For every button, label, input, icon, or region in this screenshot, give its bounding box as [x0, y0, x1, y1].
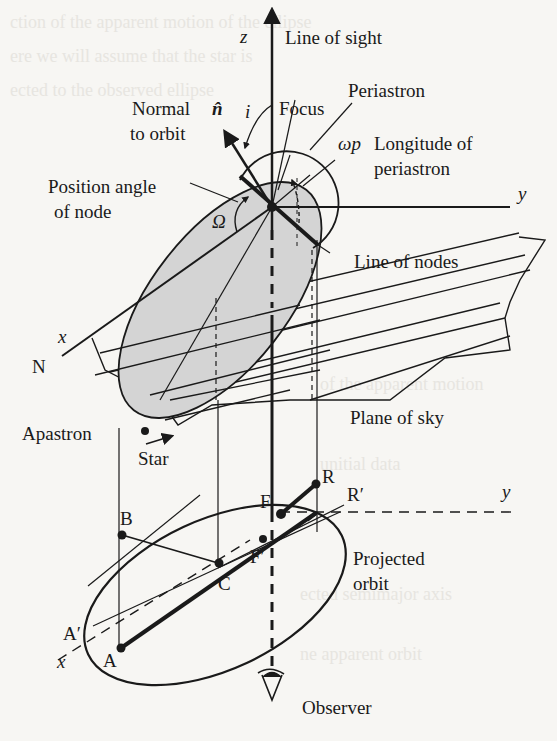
normal-label-1: Normal [132, 98, 190, 119]
star-label: Star [138, 448, 169, 469]
big-omega-label: Ω [212, 211, 226, 232]
point-C-label: C [218, 573, 231, 594]
omega-p-leader [303, 160, 335, 186]
point-A-label: A [103, 650, 117, 671]
observer-label: Observer [302, 697, 372, 718]
segment-B-C [122, 535, 218, 563]
line-of-nodes-label: Line of nodes [354, 251, 458, 272]
point-B [118, 531, 127, 540]
normal-label-2: to orbit [130, 123, 186, 144]
longitude-label-2: periastron [374, 158, 450, 179]
y-axis-lower-label: y [500, 481, 511, 502]
x-axis-upper-label: x [57, 326, 67, 347]
point-R-prime-label: R′ [347, 484, 364, 505]
position-angle-leader [190, 183, 238, 202]
omega-p-label: ωp [338, 133, 361, 154]
observer-eye-icon [258, 669, 284, 700]
position-angle-label-1: Position angle [48, 176, 156, 197]
plane-of-sky-label: Plane of sky [350, 407, 444, 428]
point-R-label: R [322, 466, 335, 487]
svg-text:ere we will assume that the st: ere we will assume that the star is [10, 46, 252, 66]
north-label: N [32, 356, 46, 377]
point-C [215, 559, 224, 568]
point-F-prime [259, 535, 267, 543]
position-angle-label-2: of node [54, 201, 112, 222]
x-axis-lower-label: x [56, 651, 66, 672]
star-point [141, 427, 149, 435]
projected-major-axis-end [307, 513, 316, 520]
periastron-label: Periastron [348, 80, 426, 101]
point-A-prime-label: A′ [63, 623, 81, 644]
line-of-sight-label: Line of sight [285, 27, 383, 48]
point-F-prime-label: F′ [250, 546, 265, 567]
projected-label-1: Projected [353, 548, 425, 569]
orbit-diagram: ction of the apparent motion of the elli… [0, 0, 557, 741]
longitude-label-1: Longitude of [374, 133, 473, 154]
focus-point [267, 202, 277, 212]
svg-text:ction of the apparent motion o: ction of the apparent motion of the elli… [10, 12, 311, 32]
svg-text:ected to the observed ellipse: ected to the observed ellipse [10, 80, 214, 100]
diagram-canvas: ction of the apparent motion of the elli… [0, 0, 557, 741]
normal-symbol: n̂ [212, 98, 223, 119]
inclination-label: i [245, 101, 250, 122]
apastron-label: Apastron [22, 423, 92, 444]
x-axis-lower [58, 540, 250, 660]
z-axis-label: z [239, 26, 248, 47]
focus-label: Focus [279, 98, 324, 119]
star-motion-arrow [146, 436, 172, 444]
point-B-label: B [120, 508, 133, 529]
y-axis-upper-label: y [516, 183, 527, 204]
point-A [117, 644, 126, 653]
projected-label-2: orbit [353, 573, 390, 594]
svg-text:ne apparent orbit: ne apparent orbit [300, 644, 422, 664]
point-F-label: F [260, 491, 271, 512]
